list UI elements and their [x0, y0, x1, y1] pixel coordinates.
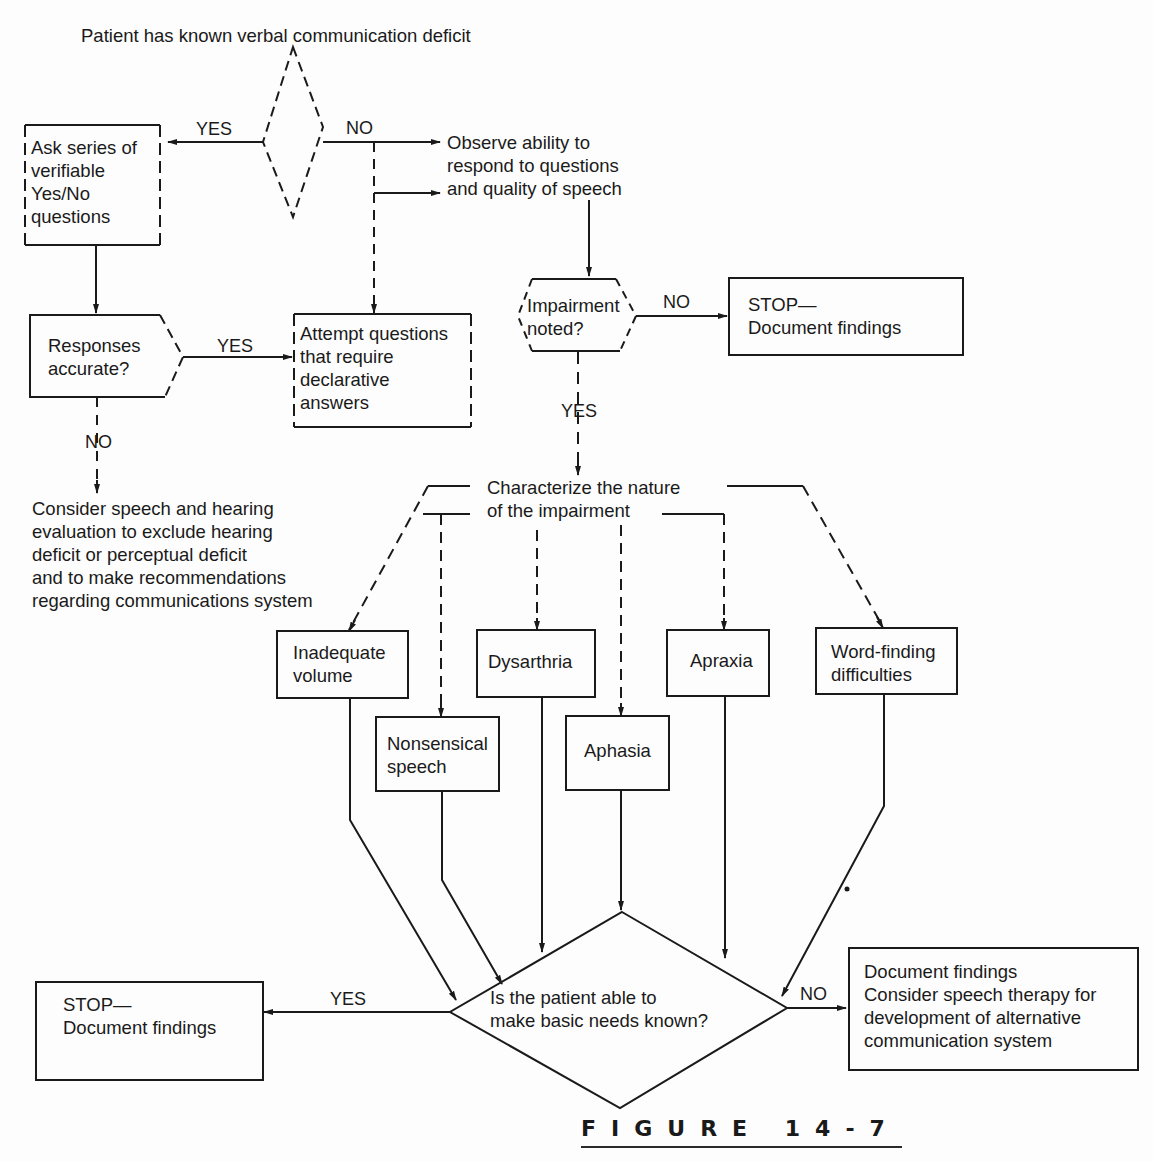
impairment-noted-decision: Impairment noted? — [527, 294, 620, 340]
basic-needs-decision: Is the patient able to make basic needs … — [490, 986, 708, 1032]
dysarthria-node: Dysarthria — [488, 650, 572, 673]
figure-label: FIGURE 14-7 — [581, 1116, 900, 1141]
inadequate-volume-node: Inadequate volume — [293, 641, 386, 687]
edge-label-impairment-yes: YES — [561, 401, 597, 421]
consider-evaluation-node: Consider speech and hearing evaluation t… — [32, 497, 313, 612]
ask-yes-no-node: Ask series of verifiable Yes/No question… — [31, 136, 137, 228]
figure-caption-text: ​ — [581, 1155, 1153, 1161]
start-node-text: Patient has known verbal communication d… — [81, 24, 471, 47]
start-decision-diamond — [263, 47, 323, 217]
edge-label-impairment-no: NO — [663, 292, 690, 312]
stop-bottom-node: STOP— Document findings — [63, 993, 216, 1039]
attempt-declarative-node: Attempt questions that require declarati… — [300, 322, 448, 414]
edge-label-responses-yes: YES — [217, 336, 253, 356]
responses-accurate-decision: Responses accurate? — [48, 334, 141, 380]
nonsensical-speech-node: Nonsensical speech — [387, 732, 488, 778]
apraxia-node: Apraxia — [690, 649, 753, 672]
observe-node: Observe ability to respond to questions … — [447, 131, 622, 200]
edge-label-responses-no: NO — [85, 432, 112, 452]
edge-label-start-no: NO — [346, 118, 373, 138]
flowchart-canvas: Patient has known verbal communication d… — [0, 0, 1153, 1161]
stop-top-node: STOP— Document findings — [748, 293, 901, 339]
word-finding-node: Word-finding difficulties — [831, 640, 936, 686]
document-consider-therapy-node: Document findings Consider speech therap… — [864, 960, 1096, 1052]
edge-label-needs-yes: YES — [330, 989, 366, 1009]
edge-label-start-yes: YES — [196, 119, 232, 139]
characterize-node: Characterize the nature of the impairmen… — [487, 476, 680, 522]
aphasia-node: Aphasia — [584, 739, 651, 762]
figure-caption-cropped: ​ — [581, 1152, 1153, 1161]
figure-label-underline — [581, 1146, 902, 1148]
edge-label-needs-no: NO — [800, 984, 827, 1004]
